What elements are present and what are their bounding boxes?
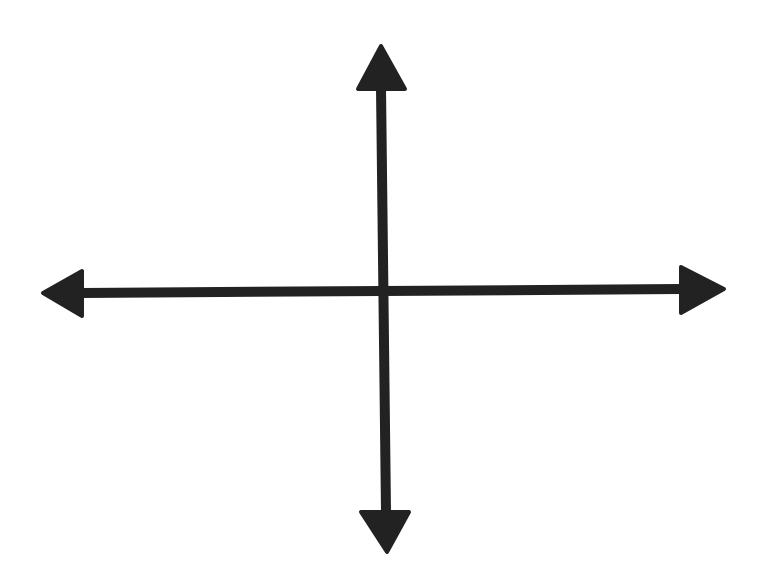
vertical-axis-line: [381, 88, 386, 512]
coordinate-axes-diagram: [0, 0, 757, 582]
